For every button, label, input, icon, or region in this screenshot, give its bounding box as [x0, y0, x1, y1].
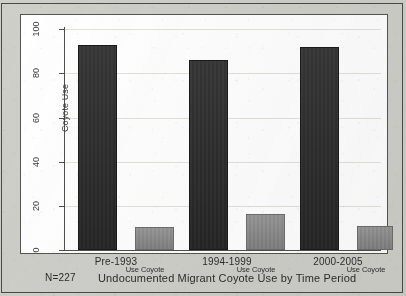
- y-tick-label-100: 100: [31, 12, 41, 46]
- period-label-pre1993: Pre-1993: [76, 256, 156, 267]
- y-tick-label-40: 40: [31, 145, 41, 179]
- y-axis-title: Coyote Use: [60, 48, 70, 168]
- period-label-2000-2005: 2000-2005: [298, 256, 378, 267]
- bar-pre1993-did-not-use: [135, 227, 174, 250]
- caption-row: N=227 Undocumented Migrant Coyote Use by…: [0, 272, 406, 288]
- x-axis-line: [64, 250, 381, 251]
- y-tick-label-0: 0: [31, 233, 41, 267]
- y-tick-label-60: 60: [31, 101, 41, 135]
- bar-2000-2005-did-not-use: [357, 226, 393, 250]
- figure-caption-title: Undocumented Migrant Coyote Use by Time …: [98, 272, 356, 284]
- y-tick-mark-100: [59, 29, 65, 30]
- bar-1994-1999-used-coyote: [189, 60, 228, 250]
- period-label-1994-1999: 1994-1999: [187, 256, 267, 267]
- bar-pre1993-used-coyote: [78, 45, 117, 250]
- sample-size-label: N=227: [45, 272, 76, 283]
- plot-area: Coyote Use 100 80 60 40 20 0: [20, 14, 388, 254]
- bar-2000-2005-used-coyote: [300, 47, 339, 250]
- y-tick-label-80: 80: [31, 56, 41, 90]
- y-tick-label-20: 20: [31, 189, 41, 223]
- axis-area: 100 80 60 40 20 0: [21, 15, 389, 255]
- y-tick-mark-20: [59, 206, 65, 207]
- bar-1994-1999-did-not-use: [246, 214, 285, 250]
- y-tick-mark-0: [59, 250, 65, 251]
- figure-container: Coyote Use 100 80 60 40 20 0: [0, 0, 406, 296]
- gridline-100: [65, 29, 381, 30]
